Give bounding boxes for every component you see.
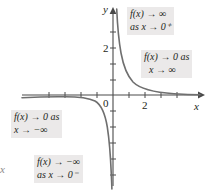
annotation-limit-right-of-zero: f(x) → ∞ as x → 0⁺ (127, 7, 174, 35)
y-tick-label-2: 2 (103, 43, 109, 54)
annotation-bottom-left-line1: f(x) → −∞ (37, 156, 80, 169)
plot-canvas (0, 0, 219, 191)
annotation-top-right-line2: as x → 0⁺ (130, 21, 171, 34)
annotation-limit-left-of-zero: f(x) → −∞ as x → 0⁻ (34, 155, 83, 183)
annotation-limit-x-to-infinity: f(x) → 0 as x → ∞ (141, 50, 192, 78)
annotation-top-right-line1: f(x) → ∞ (130, 8, 171, 21)
annotation-left-line1: f(x) → 0 as (14, 111, 59, 124)
annotation-right-line2: x → ∞ (144, 64, 189, 77)
annotation-right-line1: f(x) → 0 as (144, 51, 189, 64)
annotation-limit-x-to-neg-infinity: f(x) → 0 as x → −∞ (11, 110, 62, 138)
annotation-left-line2: x → −∞ (14, 124, 59, 137)
figure-container: y x 0 2 2 f(x) → ∞ as x → 0⁺ f(x) → 0 as… (0, 0, 219, 191)
edge-cropped-x-glyph: x (0, 164, 5, 175)
origin-label: 0 (103, 98, 109, 109)
annotation-bottom-left-line2: as x → 0⁻ (37, 169, 80, 182)
x-axis-label: x (194, 101, 199, 112)
x-tick-label-2: 2 (142, 100, 148, 111)
y-axis-label: y (103, 4, 108, 15)
y-axis-arrowhead (110, 7, 117, 14)
